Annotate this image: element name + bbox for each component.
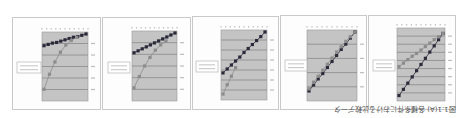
series-light-marker: [415, 52, 418, 55]
series-dark-marker: [326, 66, 329, 69]
series-light-marker: [307, 87, 310, 90]
axis-tick: [158, 27, 159, 29]
legend: [196, 61, 218, 72]
axis-tick-label: [270, 39, 274, 40]
series-light-marker: [330, 57, 333, 60]
axis-tick: [331, 26, 332, 28]
axis-tick: [176, 27, 177, 29]
axis-tick: [253, 26, 254, 28]
axis-tick-label: [180, 77, 184, 78]
series-dark-marker: [263, 30, 266, 33]
series-dark-marker: [415, 69, 418, 72]
axis-tick-label: [360, 86, 364, 87]
axis-tick: [356, 26, 357, 28]
series-light-marker: [226, 83, 229, 86]
series-light-marker: [340, 45, 343, 48]
series-light-marker: [353, 30, 356, 33]
series-dark-marker: [406, 82, 409, 85]
axis-tick: [440, 24, 441, 26]
line-chart: [13, 18, 102, 111]
series-light-marker: [64, 43, 67, 46]
figure-caption: 図1.1(A) 各種条件における比較データ: [334, 105, 456, 115]
axis-tick-label: [448, 84, 452, 85]
axis-tick: [46, 28, 47, 30]
axis-tick: [234, 26, 235, 28]
series-dark-marker: [230, 63, 233, 66]
axis-tick: [74, 28, 75, 30]
axis-tick-label: [91, 54, 95, 55]
series-light-marker: [397, 65, 400, 68]
series-dark-marker: [247, 47, 250, 50]
line-chart: [193, 17, 280, 111]
series-dark-marker: [419, 63, 422, 66]
legend: [108, 62, 130, 73]
axis-tick: [406, 24, 407, 26]
axis-tick-label: [270, 89, 274, 90]
series-light-marker: [312, 81, 315, 84]
series-light-marker: [335, 51, 338, 54]
axis-tick: [149, 27, 150, 29]
chart-panel-2: [102, 17, 191, 110]
axis-tick: [51, 28, 52, 30]
axis-tick-label: [180, 54, 184, 55]
axis-tick-label: [180, 42, 184, 43]
series-dark-marker: [145, 45, 148, 48]
axis-tick-label: [180, 89, 184, 90]
chart-panel-5: [368, 15, 456, 110]
axis-tick: [87, 28, 88, 30]
axis-tick-label: [91, 66, 95, 67]
series-light-marker: [326, 63, 329, 66]
axis-tick-label: [270, 79, 274, 80]
axis-tick: [262, 26, 263, 28]
series-light-marker: [53, 60, 56, 63]
series-dark-marker: [51, 42, 54, 45]
axis-tick: [248, 26, 249, 28]
axis-tick: [425, 24, 426, 26]
series-dark-marker: [411, 75, 414, 78]
series-dark-marker: [47, 43, 50, 46]
axis-tick: [316, 26, 317, 28]
series-dark-marker: [424, 57, 427, 60]
plot-area: [221, 30, 267, 100]
series-light-marker: [148, 56, 151, 59]
axis-tick: [136, 27, 137, 29]
axis-tick-label: [270, 49, 274, 50]
axis-tick: [257, 26, 258, 28]
axis-tick-label: [448, 76, 452, 77]
series-light-marker: [406, 58, 409, 61]
series-light-marker: [402, 62, 405, 65]
series-dark-marker: [55, 41, 58, 44]
series-light-marker: [234, 66, 237, 69]
axis-tick-label: [180, 65, 184, 66]
series-dark-marker: [402, 88, 405, 91]
series-dark-marker: [59, 40, 62, 43]
axis-tick: [341, 26, 342, 28]
series-dark-marker: [428, 50, 431, 53]
axis-tick-label: [448, 68, 452, 69]
series-dark-marker: [234, 59, 237, 62]
series-dark-marker: [161, 37, 164, 40]
chart-panel-4: [280, 15, 367, 110]
series-dark-marker: [335, 54, 338, 57]
axis-tick: [60, 28, 61, 30]
axis-tick: [163, 27, 164, 29]
series-dark-marker: [251, 43, 254, 46]
legend: [17, 62, 41, 73]
axis-tick: [444, 24, 445, 26]
axis-tick-label: [448, 44, 452, 45]
axis-tick: [41, 28, 42, 30]
series-light-marker: [230, 75, 233, 78]
axis-tick: [396, 24, 397, 26]
axis-tick: [266, 26, 267, 28]
axis-tick: [220, 26, 221, 28]
series-light-marker: [154, 49, 157, 52]
series-dark-marker: [80, 34, 83, 37]
series-light-marker: [321, 69, 324, 72]
series-dark-marker: [259, 35, 262, 38]
series-dark-marker: [221, 71, 224, 74]
axis-tick: [55, 28, 56, 30]
series-light-marker: [419, 48, 422, 51]
series-dark-marker: [157, 39, 160, 42]
series-light-marker: [132, 86, 135, 89]
axis-tick-label: [91, 77, 95, 78]
